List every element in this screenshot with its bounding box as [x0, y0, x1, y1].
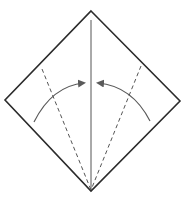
origami-diagram [0, 0, 189, 206]
paper-diamond [5, 11, 180, 191]
